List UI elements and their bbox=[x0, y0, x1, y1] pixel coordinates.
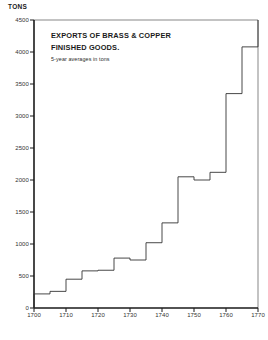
y-axis-tick-labels: 050010001500200025003000350040004500 bbox=[0, 0, 29, 340]
chart-container: TONS 05001000150020002500300035004000450… bbox=[0, 0, 268, 340]
x-axis-tick-label: 1720 bbox=[91, 312, 105, 318]
y-axis-tick-label: 3000 bbox=[15, 113, 29, 119]
y-axis-tick-label: 0 bbox=[26, 305, 29, 311]
y-axis-tick-label: 1500 bbox=[15, 209, 29, 215]
y-axis-tick-label: 3500 bbox=[15, 81, 29, 87]
x-axis-tick-label: 1730 bbox=[123, 312, 137, 318]
y-axis-tick-label: 2500 bbox=[15, 145, 29, 151]
chart-title-line-1: EXPORTS OF BRASS & COPPER bbox=[51, 30, 191, 42]
chart-subtitle: 5-year averages in tons bbox=[51, 56, 191, 62]
y-axis-tick-label: 500 bbox=[19, 273, 29, 279]
chart-title-block: EXPORTS OF BRASS & COPPER FINISHED GOODS… bbox=[51, 30, 191, 62]
y-axis-tick-label: 1000 bbox=[15, 241, 29, 247]
x-axis-tick-label: 1710 bbox=[59, 312, 73, 318]
y-axis-tick-label: 4500 bbox=[15, 17, 29, 23]
chart-title-line-2: FINISHED GOODS. bbox=[51, 42, 191, 54]
y-axis-tick-label: 4000 bbox=[15, 49, 29, 55]
x-axis-tick-label: 1750 bbox=[187, 312, 201, 318]
x-axis-tick-label: 1770 bbox=[251, 312, 265, 318]
x-axis-tick-label: 1760 bbox=[219, 312, 233, 318]
x-axis-tick-label: 1740 bbox=[155, 312, 169, 318]
x-axis-tick-label: 1700 bbox=[27, 312, 41, 318]
y-axis-tick-label: 2000 bbox=[15, 177, 29, 183]
